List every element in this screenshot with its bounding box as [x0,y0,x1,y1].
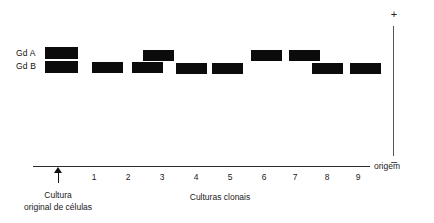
tick-label-7: 7 [288,172,302,182]
tick-label-6: 6 [257,172,271,182]
arrow-shaft [58,171,60,183]
tick-label-8: 8 [320,172,334,182]
caption-clonal-cultures: Culturas clonais [190,192,250,202]
row-label-gd-a: Gd A [16,48,36,58]
band-lane-8-gd-b [312,63,343,74]
origin-label: origem [374,161,400,171]
caption-original-culture-line1: Cultura [44,190,71,200]
band-lane-4-gd-b [176,63,207,74]
gel-electrophoresis-figure: Gd A Gd B 1 2 3 4 5 6 7 8 9 [0,0,434,223]
tick-label-5: 5 [223,172,237,182]
polarity-positive-label: + [387,8,401,20]
band-original-gd-b [45,61,78,73]
polarity-axis: + – [386,8,434,173]
band-lane-2-gd-b [132,62,163,73]
tick-label-2: 2 [121,172,135,182]
band-lane-6-gd-a [251,50,282,61]
band-lane-1-gd-b [92,62,123,73]
row-label-gd-b: Gd B [16,61,36,71]
original-culture-arrow-icon [54,167,63,183]
gel-lane-area: Gd A Gd B [0,0,434,160]
baseline-axis [33,166,370,167]
polarity-axis-line [393,26,394,156]
tick-label-9: 9 [351,172,365,182]
caption-original-culture-line2: original de células [24,202,92,212]
band-lane-9-gd-b [350,63,381,74]
band-lane-3-gd-a [143,50,174,61]
band-lane-7-gd-a [289,50,320,61]
tick-label-3: 3 [155,172,169,182]
band-original-gd-a [45,47,78,59]
tick-label-4: 4 [189,172,203,182]
tick-label-1: 1 [87,172,101,182]
band-lane-5-gd-b [212,63,243,74]
